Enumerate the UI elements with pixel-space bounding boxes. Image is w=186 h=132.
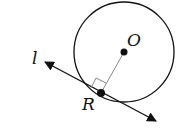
tangent-diagram: O R l: [0, 0, 186, 132]
label-O: O: [127, 30, 141, 50]
radius-OR: [101, 52, 124, 93]
label-l: l: [32, 48, 37, 68]
point-R: [97, 89, 105, 97]
right-angle-marker: [91, 78, 106, 88]
label-R: R: [81, 94, 95, 114]
